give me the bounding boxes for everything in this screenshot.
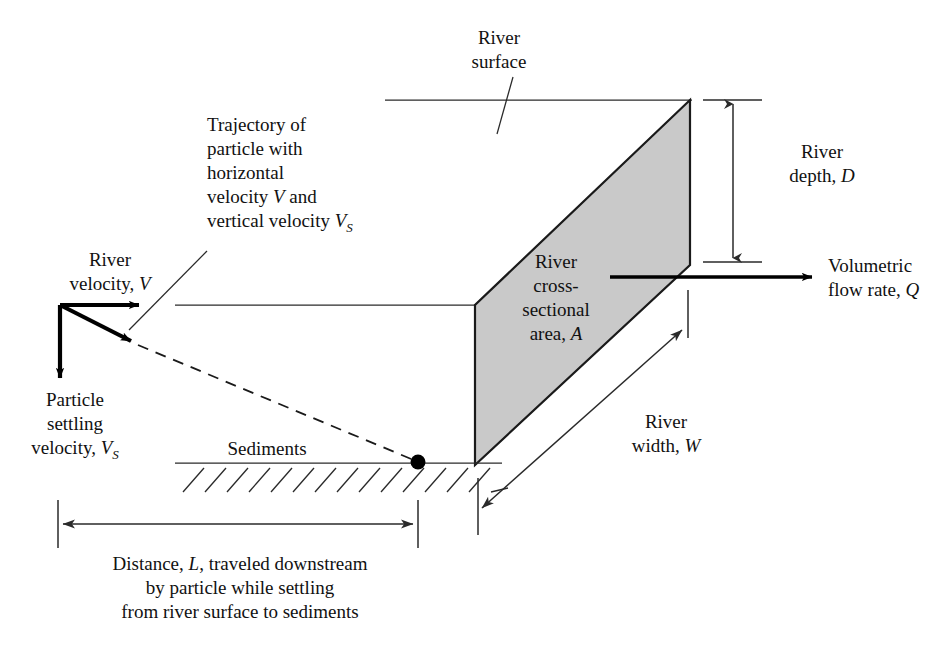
river-velocity-label-line1: River [89, 249, 132, 270]
river-surface-label-line2: surface [472, 51, 527, 72]
settled-particle-dot [411, 455, 426, 470]
river-surface-label: River surface [472, 27, 527, 72]
trajectory-label-line4: velocity V and [207, 186, 317, 207]
sediment-bed [175, 463, 508, 492]
cross-section-label-line3: sectional [522, 299, 590, 320]
distance-caption-line1: Distance, L, traveled downstream [113, 553, 368, 574]
trajectory-label-line5: vertical velocity VS [207, 210, 353, 235]
sediment-hatching [183, 468, 508, 492]
river-depth-label: River depth, D [789, 141, 855, 186]
river-width-label-line2: width, W [632, 435, 703, 456]
resultant-velocity-vector [60, 305, 131, 341]
trajectory-label-line3: horizontal [207, 162, 284, 183]
trajectory-label: Trajectory of particle with horizontal v… [207, 114, 353, 235]
diagram-root: River surface Trajectory of particle wit… [0, 0, 936, 648]
river-surface-leader [497, 77, 513, 134]
trajectory-label-line2: particle with [207, 138, 303, 159]
leader-lines [129, 77, 513, 330]
river-velocity-label: River velocity, V [69, 249, 152, 294]
river-surface-label-line1: River [478, 27, 521, 48]
river-width-label-line1: River [645, 411, 688, 432]
volumetric-flow-label-line2: flow rate, Q [828, 279, 920, 300]
sediments-label: Sediments [227, 438, 306, 459]
cross-section-label-line2: cross- [533, 275, 578, 296]
distance-dimension [58, 500, 418, 548]
distance-caption-line2: by particle while settling [146, 577, 335, 598]
distance-caption-line3: from river surface to sediments [121, 601, 358, 622]
particle-settling-label-line1: Particle [46, 389, 104, 410]
volumetric-flow-label-line1: Volumetric [828, 255, 912, 276]
cross-section-label-line1: River [535, 251, 578, 272]
river-settling-diagram: River surface Trajectory of particle wit… [0, 0, 936, 648]
velocity-vector-group [60, 305, 139, 378]
particle-settling-label-line3: velocity, VS [31, 437, 119, 462]
distance-caption: Distance, L, traveled downstream by part… [113, 553, 368, 622]
river-width-label: River width, W [632, 411, 703, 456]
cross-section-label-line4: area, A [530, 323, 583, 344]
river-depth-label-line1: River [801, 141, 844, 162]
river-velocity-label-line2: velocity, V [69, 273, 152, 294]
particle-settling-label-line2: settling [47, 413, 103, 434]
river-depth-dimension [703, 100, 762, 262]
trajectory-label-line1: Trajectory of [207, 114, 307, 135]
river-depth-label-line2: depth, D [789, 165, 855, 186]
sediments-label-text: Sediments [227, 438, 306, 459]
volumetric-flow-label: Volumetric flow rate, Q [828, 255, 920, 300]
particle-settling-label: Particle settling velocity, VS [31, 389, 119, 462]
